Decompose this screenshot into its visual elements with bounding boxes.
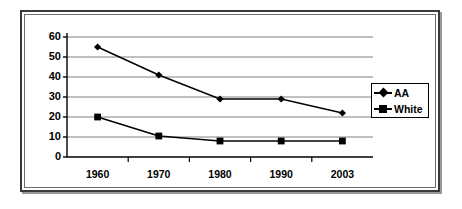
y-axis-label-50: 50 <box>31 51 61 62</box>
y-axis-label-60: 60 <box>31 31 61 42</box>
data-point-white-1980 <box>217 138 224 145</box>
y-axis-label-10: 10 <box>31 131 61 142</box>
data-point-white-2003 <box>339 138 346 145</box>
y-axis-label-20: 20 <box>31 111 61 122</box>
y-axis-label-0: 0 <box>31 151 61 162</box>
data-point-white-1960 <box>94 114 101 121</box>
data-point-aa-1990 <box>278 95 285 102</box>
x-axis-label-1960: 1960 <box>67 169 128 180</box>
legend-item-aa: AA <box>372 85 428 101</box>
data-point-aa-2003 <box>339 109 346 116</box>
chart-figure-frame: 0102030405060 19601970198019902003 AA Wh… <box>20 10 440 192</box>
y-axis-label-30: 30 <box>31 91 61 102</box>
x-axis-label-1990: 1990 <box>251 169 312 180</box>
data-point-aa-1960 <box>94 43 101 50</box>
legend-marker-diamond-icon <box>372 86 394 100</box>
data-point-aa-1980 <box>216 95 223 102</box>
y-axis-label-40: 40 <box>31 71 61 82</box>
legend-label-white: White <box>394 103 423 115</box>
line-chart: 0102030405060 19601970198019902003 AA Wh… <box>25 15 435 187</box>
chart-legend: AA White <box>371 83 429 118</box>
data-point-white-1990 <box>278 138 285 145</box>
data-point-aa-1970 <box>155 71 162 78</box>
chart-figure-inner-border: 0102030405060 19601970198019902003 AA Wh… <box>24 14 436 188</box>
legend-label-aa: AA <box>394 87 409 99</box>
legend-marker-square-icon <box>372 102 394 116</box>
x-axis-label-1970: 1970 <box>128 169 189 180</box>
x-axis-label-1980: 1980 <box>189 169 250 180</box>
x-axis-label-2003: 2003 <box>312 169 373 180</box>
legend-item-white: White <box>372 101 428 117</box>
data-point-white-1970 <box>155 133 162 140</box>
